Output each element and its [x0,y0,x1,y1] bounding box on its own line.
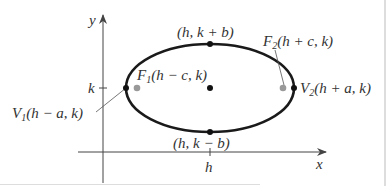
f2-leader-line [275,50,284,85]
ellipse-diagram: y x k h (h, k + b) (h, k − b) F1(h − c, … [0,0,389,186]
focus1-dot [134,85,141,92]
focus2-dot [280,85,287,92]
y-axis-label: y [87,12,96,28]
h-tick-label: h [205,159,213,175]
focus1-label: F1(h − c, k) [136,67,207,85]
v1-leader-line [96,88,126,112]
vertex2-label: V2(h + a, k) [300,80,371,98]
focus2-label: F2(h + c, k) [262,33,333,51]
focus2-coords: (h + c, k) [277,33,333,50]
vertex2-dot [291,85,297,91]
vertex1-label: V1(h − a, k) [12,105,83,123]
vertex1-dot [123,85,129,91]
vertex1-coords: (h − a, k) [26,105,83,122]
k-tick-label: k [88,80,95,96]
vertex2-coords: (h + a, k) [314,80,371,97]
bottom-point-label: (h, k − b) [173,135,230,152]
center-dot [207,85,213,91]
top-vertex-dot [207,41,213,47]
x-axis-label: x [315,156,323,172]
focus1-coords: (h − c, k) [151,67,207,84]
top-point-label: (h, k + b) [177,24,234,41]
